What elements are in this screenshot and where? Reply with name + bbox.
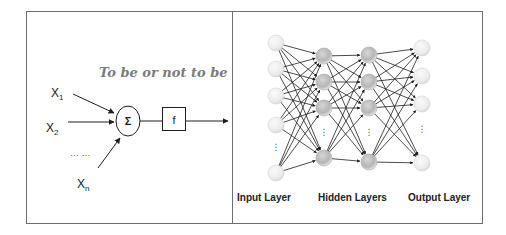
network-edge [283,58,316,67]
input-node-5 [268,165,284,181]
output-node-1 [414,40,430,56]
hidden1-node-1 [316,48,332,64]
arrow-xn [98,138,120,168]
input-node-1 [268,35,284,51]
hidden2-node-2 [361,74,377,90]
hidden1-node-2 [316,74,332,90]
hidden1-node-4 [316,150,332,166]
diagram-canvas: To be or not to be X1 X2 Xn … … Σ f ⋮⋮⋮⋮… [0,0,506,235]
label-input-layer: Input Layer [237,192,291,203]
output-ellipsis: ⋮ [418,124,427,134]
output-node-4 [414,155,430,171]
input-node-2 [268,61,284,77]
network-edge [283,161,316,171]
input-ellipsis: ⋮ [272,142,281,152]
caption-text: To be or not to be [99,65,228,80]
input-label-xn: Xn [77,177,89,193]
input-label-x1: X1 [51,86,64,102]
hidden1-ellipsis: ⋮ [320,127,329,137]
output-node-2 [414,68,430,84]
network-edge [280,102,318,151]
network-panel: ⋮⋮⋮⋮ Input Layer Hidden Layers Output La… [237,35,470,203]
input-node-4 [268,117,284,133]
network-edge [376,49,413,54]
input-label-x2: X2 [46,121,59,137]
inputs-ellipsis: … … [70,148,91,158]
label-output-layer: Output Layer [408,192,470,203]
hidden2-ellipsis: ⋮ [365,127,374,137]
label-hidden-layers: Hidden Layers [318,192,387,203]
network-edge [331,159,360,162]
hidden2-node-3 [361,100,377,116]
hidden2-node-1 [361,47,377,63]
network-edge [279,75,319,150]
hidden1-node-3 [316,100,332,116]
network-edge [331,55,360,56]
network-edge [376,162,413,163]
network-edges [279,45,419,171]
network-edge [375,81,414,105]
sigma-symbol: Σ [125,115,132,127]
network-edge [282,129,317,153]
neuron-panel: To be or not to be X1 X2 Xn … … Σ f [46,65,228,193]
network-edge [280,115,319,167]
arrow-x1 [73,94,114,113]
hidden2-node-4 [361,154,377,170]
output-node-3 [414,96,430,112]
input-node-3 [268,88,284,104]
